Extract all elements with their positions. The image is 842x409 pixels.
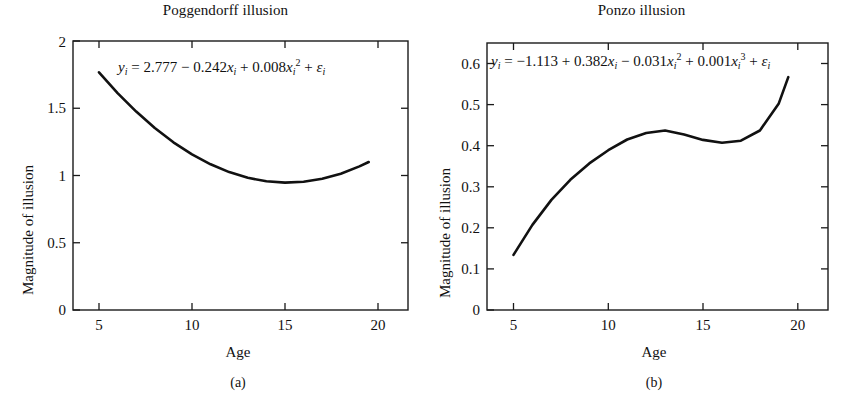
- panel-b-equation: yi = −1.113 + 0.382xi − 0.031xi2 + 0.001…: [489, 51, 771, 71]
- panel-a-xtick-5: 5: [95, 317, 103, 333]
- panel-b-xtick-5: 5: [510, 317, 518, 333]
- panel-a-poggendorff: Poggendorff illusion Magnitude of illusi…: [0, 0, 421, 409]
- panel-b-x-tick-marks-top: [514, 43, 798, 50]
- panel-b-xtick-15: 15: [696, 317, 711, 333]
- panel-b-curve: [514, 77, 789, 255]
- panel-b-axes-frame: [487, 43, 828, 310]
- panel-a-equation: yi = 2.777 − 0.242xi + 0.008xi2 + εi: [116, 57, 325, 77]
- panel-b-ytick-3: 0.3: [461, 179, 480, 195]
- panel-a-ytick-0: 0: [59, 302, 67, 318]
- panel-a-ytick-2: 1: [59, 168, 67, 184]
- panel-b-ytick-5: 0.5: [461, 97, 480, 113]
- panel-b-ytick-2: 0.2: [461, 220, 480, 236]
- panel-a-xtick-20: 20: [371, 317, 386, 333]
- panel-b-xtick-20: 20: [790, 317, 805, 333]
- panel-b-x-axis-label: Age: [421, 344, 842, 361]
- panel-b-ponzo: Ponzo illusion Magnitude of illusion: [421, 0, 842, 409]
- panel-b-y-tick-marks: [487, 64, 494, 311]
- panel-a-y-tick-marks-right: [401, 108, 408, 243]
- panel-a-ytick-3: 1.5: [47, 100, 66, 116]
- panel-a-caption: (a): [0, 375, 421, 391]
- panel-b-xtick-10: 10: [601, 317, 616, 333]
- panel-a-ytick-4: 2: [59, 34, 67, 50]
- panel-a-x-tick-marks-top: [99, 41, 378, 48]
- panel-a-xtick-15: 15: [278, 317, 293, 333]
- panel-b-y-tick-marks-right: [821, 64, 828, 269]
- panel-b-caption: (b): [421, 375, 842, 391]
- panel-b-x-tick-marks: [514, 303, 798, 310]
- panel-b-ytick-4: 0.4: [461, 138, 480, 154]
- panel-b-ytick-0: 0: [473, 302, 481, 318]
- panel-a-curve: [99, 72, 369, 182]
- panel-a-x-tick-marks: [99, 303, 378, 310]
- panel-a-ytick-1: 0.5: [47, 235, 66, 251]
- figure-two-panel-illusion-plots: Poggendorff illusion Magnitude of illusi…: [0, 0, 842, 409]
- panel-a-x-axis-label: Age: [0, 344, 421, 361]
- panel-a-xtick-10: 10: [185, 317, 200, 333]
- panel-b-ytick-1: 0.1: [461, 261, 480, 277]
- panel-b-ytick-6: 0.6: [461, 56, 480, 72]
- panel-a-y-tick-marks: [73, 41, 80, 310]
